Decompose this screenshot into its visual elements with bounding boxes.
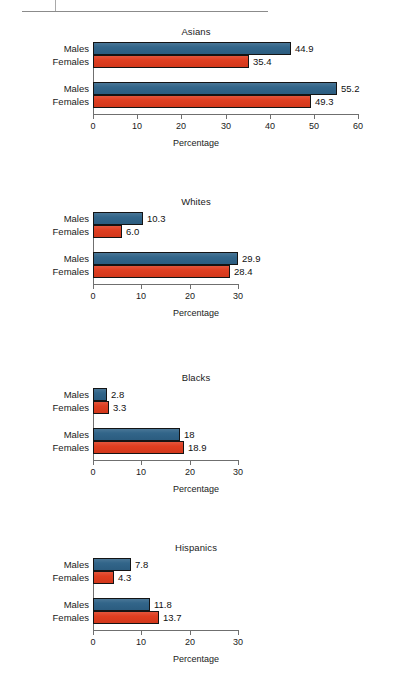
x-axis-tick-label: 30 bbox=[223, 291, 253, 301]
category-label-females: Females bbox=[19, 441, 89, 454]
bar-females-1960 bbox=[93, 225, 122, 238]
chart-title-text: Hispanics bbox=[175, 542, 217, 553]
category-label-females: Females bbox=[19, 95, 89, 108]
bar-value-label: 13.7 bbox=[163, 611, 182, 624]
chart-page: Asians010203040506044.9Males35.4Females5… bbox=[0, 0, 396, 686]
bar-value-label: 35.4 bbox=[253, 55, 272, 68]
bar-females-2007 bbox=[93, 265, 230, 278]
x-axis-tick bbox=[238, 285, 239, 289]
x-axis-tick bbox=[314, 115, 315, 119]
x-axis-title: Percentage bbox=[0, 654, 396, 664]
category-label-females: Females bbox=[19, 265, 89, 278]
x-axis-title-text: Percentage bbox=[173, 138, 219, 148]
x-axis-tick-label: 10 bbox=[126, 637, 156, 647]
bar-value-label: 11.8 bbox=[154, 598, 172, 611]
chart-title: Hispanics bbox=[0, 542, 396, 553]
category-label-females: Females bbox=[19, 571, 89, 584]
bar-value-label: 18.9 bbox=[188, 441, 207, 454]
x-axis-tick bbox=[93, 631, 94, 635]
x-axis-tick bbox=[141, 461, 142, 465]
x-axis-tick bbox=[238, 461, 239, 465]
x-axis-tick bbox=[93, 285, 94, 289]
header-ghost-text bbox=[150, 0, 270, 9]
group-year-label: 2007 bbox=[0, 259, 14, 272]
category-label-males: Males bbox=[19, 558, 89, 571]
group-year-label: 1990 bbox=[0, 49, 14, 62]
category-label-males: Males bbox=[19, 388, 89, 401]
x-axis-tick bbox=[93, 115, 94, 119]
x-axis-title-text: Percentage bbox=[173, 308, 219, 318]
group-year-label: 1960 bbox=[0, 219, 14, 232]
bar-males-1990 bbox=[93, 42, 291, 55]
bar-females-1990 bbox=[93, 55, 249, 68]
x-axis-tick-label: 20 bbox=[175, 291, 205, 301]
bar-value-label: 18 bbox=[184, 428, 195, 441]
x-axis-tick bbox=[226, 115, 227, 119]
group-year-label: 1970 bbox=[0, 565, 14, 578]
x-axis-tick-label: 0 bbox=[78, 467, 108, 477]
x-axis-tick bbox=[93, 461, 94, 465]
bar-value-label: 49.3 bbox=[315, 95, 334, 108]
header-vertical-divider bbox=[55, 0, 56, 11]
x-axis-title-text: Percentage bbox=[173, 654, 219, 664]
bar-value-label: 6.0 bbox=[126, 225, 139, 238]
bar-males-2007 bbox=[93, 598, 150, 611]
category-label-males: Males bbox=[19, 212, 89, 225]
x-axis-tick-label: 10 bbox=[122, 121, 152, 131]
chart-title-text: Blacks bbox=[182, 372, 211, 383]
x-axis-tick-label: 10 bbox=[126, 291, 156, 301]
x-axis-tick-label: 10 bbox=[126, 467, 156, 477]
x-axis-tick-label: 0 bbox=[78, 637, 108, 647]
x-axis-line bbox=[93, 284, 239, 285]
group-year-label: 2007 bbox=[0, 89, 14, 102]
chart-title-text: Asians bbox=[181, 26, 210, 37]
bar-value-label: 4.3 bbox=[118, 571, 131, 584]
bar-males-2007 bbox=[93, 82, 337, 95]
chart-title: Whites bbox=[0, 196, 396, 207]
bar-females-1960 bbox=[93, 401, 109, 414]
category-label-females: Females bbox=[19, 55, 89, 68]
header-horizontal-rule bbox=[22, 11, 268, 12]
category-label-males: Males bbox=[19, 428, 89, 441]
category-label-males: Males bbox=[19, 598, 89, 611]
bar-value-label: 3.3 bbox=[113, 401, 126, 414]
x-axis-title: Percentage bbox=[0, 138, 396, 148]
x-axis-title: Percentage bbox=[0, 484, 396, 494]
category-label-females: Females bbox=[19, 401, 89, 414]
x-axis-title-text: Percentage bbox=[173, 484, 219, 494]
x-axis-tick-label: 30 bbox=[223, 637, 253, 647]
category-label-males: Males bbox=[19, 42, 89, 55]
bar-males-1960 bbox=[93, 212, 143, 225]
group-year-label: 2007 bbox=[0, 605, 14, 618]
x-axis-line bbox=[93, 630, 239, 631]
x-axis-tick-label: 30 bbox=[211, 121, 241, 131]
category-label-females: Females bbox=[19, 611, 89, 624]
x-axis-tick bbox=[238, 631, 239, 635]
category-label-males: Males bbox=[19, 82, 89, 95]
x-axis-tick-label: 20 bbox=[166, 121, 196, 131]
x-axis-tick bbox=[141, 631, 142, 635]
bar-value-label: 29.9 bbox=[242, 252, 261, 265]
bar-females-1970 bbox=[93, 571, 114, 584]
bar-males-2007 bbox=[93, 252, 238, 265]
bar-males-2007 bbox=[93, 428, 180, 441]
x-axis-tick bbox=[190, 461, 191, 465]
x-axis-tick bbox=[141, 285, 142, 289]
x-axis-tick bbox=[181, 115, 182, 119]
x-axis-tick bbox=[190, 631, 191, 635]
bar-males-1960 bbox=[93, 388, 107, 401]
x-axis-tick bbox=[190, 285, 191, 289]
x-axis-tick bbox=[137, 115, 138, 119]
x-axis-title: Percentage bbox=[0, 308, 396, 318]
x-axis-tick-label: 0 bbox=[78, 291, 108, 301]
x-axis-tick-label: 60 bbox=[343, 121, 373, 131]
x-axis-tick-label: 20 bbox=[175, 637, 205, 647]
chart-title-text: Whites bbox=[181, 196, 211, 207]
category-label-males: Males bbox=[19, 252, 89, 265]
group-year-label: 2007 bbox=[0, 435, 14, 448]
bar-value-label: 7.8 bbox=[135, 558, 148, 571]
x-axis-tick-label: 40 bbox=[255, 121, 285, 131]
x-axis-tick-label: 20 bbox=[175, 467, 205, 477]
x-axis-tick bbox=[270, 115, 271, 119]
bar-value-label: 55.2 bbox=[341, 82, 360, 95]
